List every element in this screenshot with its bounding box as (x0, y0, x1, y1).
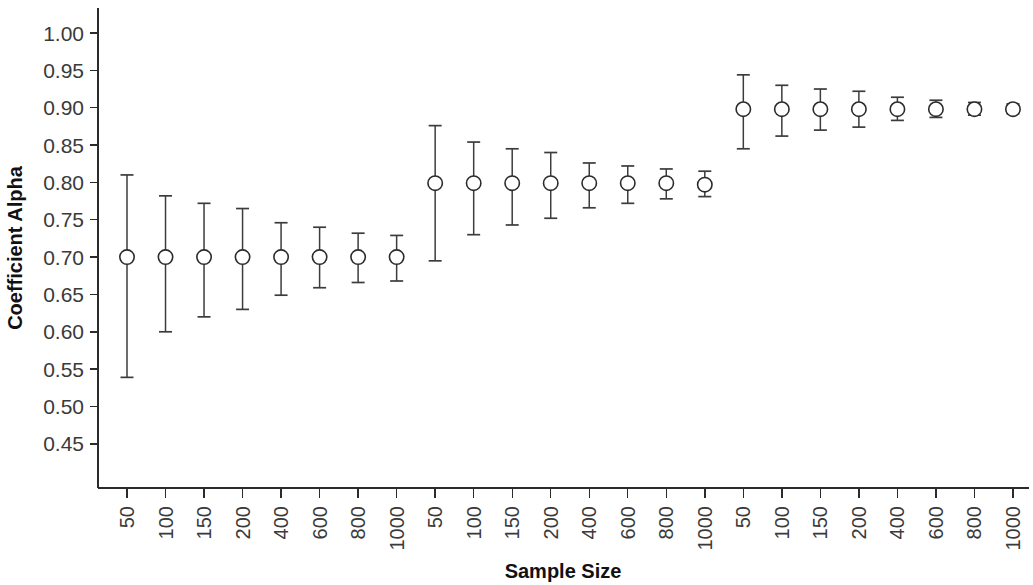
data-point-marker (197, 250, 211, 264)
data-point-marker (389, 250, 403, 264)
data-point-group (929, 100, 943, 117)
x-tick-label: 400 (270, 506, 292, 539)
data-point-group (505, 149, 519, 225)
data-point-group (428, 126, 442, 261)
data-point-marker (621, 176, 635, 190)
y-axis-title: Coefficient Alpha (4, 165, 26, 330)
data-point-marker (505, 176, 519, 190)
data-point-marker (158, 250, 172, 264)
x-tick-label: 1000 (694, 506, 716, 551)
data-point-group (274, 223, 288, 295)
x-tick-label: 150 (809, 506, 831, 539)
y-tick-label: 0.70 (43, 246, 84, 269)
data-point-group (890, 97, 904, 120)
scatter-plot-with-error-bars: 1.000.950.900.850.800.750.700.650.600.55… (0, 0, 1033, 585)
data-point-marker (967, 102, 981, 116)
data-point-marker (813, 102, 827, 116)
y-tick-label: 0.95 (43, 59, 84, 82)
data-point-group (698, 171, 712, 196)
x-tick-label: 600 (617, 506, 639, 539)
y-tick-label: 1.00 (43, 22, 84, 45)
data-point-marker (698, 177, 712, 191)
x-tick-label: 50 (424, 506, 446, 528)
data-point-group (197, 203, 211, 317)
data-point-group (466, 142, 480, 235)
data-point-marker (890, 102, 904, 116)
x-tick-label: 50 (116, 506, 138, 528)
x-tick-label: 600 (309, 506, 331, 539)
data-point-group (621, 166, 635, 203)
x-tick-label: 200 (232, 506, 254, 539)
data-point-marker (852, 102, 866, 116)
y-tick-label: 0.75 (43, 208, 84, 231)
data-point-marker (312, 250, 326, 264)
x-tick-label: 100 (155, 506, 177, 539)
data-point-marker (235, 250, 249, 264)
y-axis-tick-group: 1.000.950.900.850.800.750.700.650.600.55… (43, 22, 98, 456)
x-tick-label: 400 (578, 506, 600, 539)
data-point-group (967, 102, 981, 116)
x-tick-label: 100 (771, 506, 793, 539)
data-point-group (389, 235, 403, 281)
y-tick-label: 0.65 (43, 283, 84, 306)
y-tick-label: 0.85 (43, 134, 84, 157)
data-point-group (1006, 102, 1020, 116)
data-point-group (158, 196, 172, 332)
data-point-group (852, 91, 866, 127)
data-point-marker (466, 176, 480, 190)
x-axis-tick-group: 5010015020040060080010005010015020040060… (116, 488, 1024, 551)
data-point-marker (1006, 102, 1020, 116)
data-point-marker (775, 102, 789, 116)
x-tick-label: 150 (501, 506, 523, 539)
chart-figure: 1.000.950.900.850.800.750.700.650.600.55… (0, 0, 1033, 585)
data-point-marker (274, 250, 288, 264)
data-point-marker (120, 250, 134, 264)
x-tick-label: 800 (963, 506, 985, 539)
x-tick-label: 50 (732, 506, 754, 528)
x-axis-title: Sample Size (505, 560, 622, 582)
x-tick-label: 800 (347, 506, 369, 539)
data-point-group (312, 227, 326, 288)
data-point-marker (351, 250, 365, 264)
data-series-layer (120, 75, 1020, 378)
data-point-marker (659, 176, 673, 190)
y-tick-label: 0.60 (43, 320, 84, 343)
data-point-marker (544, 176, 558, 190)
y-tick-label: 0.45 (43, 432, 84, 455)
x-tick-label: 600 (925, 506, 947, 539)
x-tick-label: 150 (193, 506, 215, 539)
data-point-group (775, 85, 789, 136)
y-tick-label: 0.55 (43, 358, 84, 381)
x-tick-label: 400 (886, 506, 908, 539)
data-point-group (544, 153, 558, 219)
data-point-marker (736, 102, 750, 116)
data-point-marker (582, 176, 596, 190)
y-tick-label: 0.90 (43, 96, 84, 119)
data-point-group (351, 233, 365, 282)
x-tick-label: 100 (463, 506, 485, 539)
x-tick-label: 1000 (1002, 506, 1024, 551)
y-tick-label: 0.80 (43, 171, 84, 194)
x-tick-label: 200 (540, 506, 562, 539)
data-point-group (659, 169, 673, 199)
x-tick-label: 800 (655, 506, 677, 539)
x-tick-label: 200 (848, 506, 870, 539)
data-point-group (582, 163, 596, 208)
data-point-marker (929, 102, 943, 116)
x-tick-label: 1000 (386, 506, 408, 551)
data-point-marker (428, 176, 442, 190)
data-point-group (736, 75, 750, 149)
y-tick-label: 0.50 (43, 395, 84, 418)
data-point-group (120, 175, 134, 377)
data-point-group (235, 209, 249, 310)
data-point-group (813, 89, 827, 130)
